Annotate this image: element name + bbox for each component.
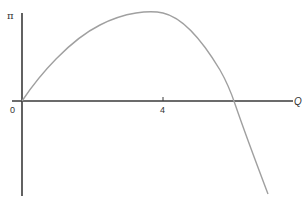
origin-label: 0: [10, 106, 15, 115]
x-tick-label-4: 4: [160, 106, 165, 115]
profit-curve: [22, 12, 268, 194]
y-axis-label: π: [7, 11, 14, 21]
profit-chart: [0, 0, 305, 207]
x-axis-label: Q: [294, 97, 302, 107]
